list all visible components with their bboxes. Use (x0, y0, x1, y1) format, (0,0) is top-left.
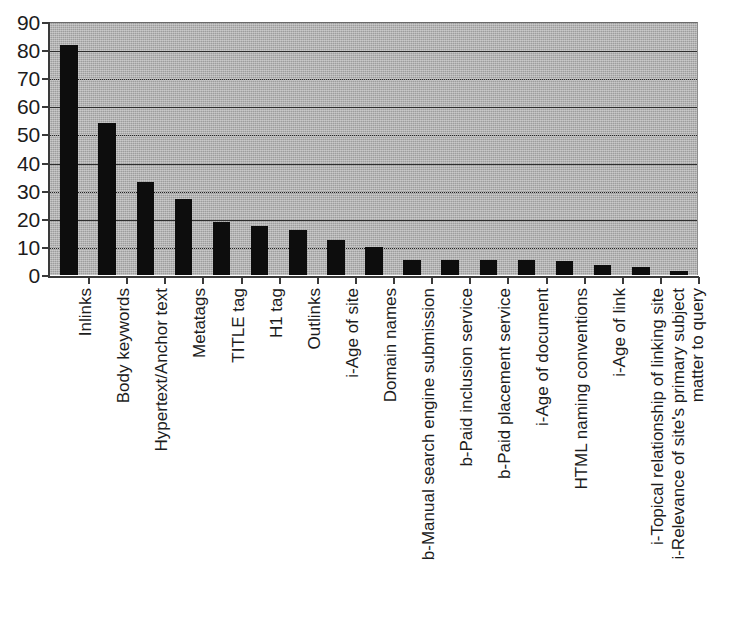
x-category-label: Metatags (190, 288, 209, 358)
gridline (50, 51, 697, 52)
x-category-label: Outlinks (305, 288, 324, 349)
x-tick-mark (698, 277, 700, 284)
x-tick-mark (355, 277, 357, 284)
x-tick-mark (622, 277, 624, 284)
x-category-label: Body keywords (114, 288, 133, 403)
bar[interactable] (137, 182, 155, 275)
x-tick-mark (88, 277, 90, 284)
x-tick-mark (164, 277, 166, 284)
bar[interactable] (289, 230, 307, 275)
bar[interactable] (670, 271, 688, 275)
x-category-label: Hypertext/Anchor text (152, 288, 171, 451)
y-tick-mark (42, 219, 49, 221)
y-tick-mark (42, 22, 49, 24)
y-tick-label: 20 (17, 208, 40, 229)
y-tick-label: 80 (17, 40, 40, 61)
x-tick-mark (279, 277, 281, 284)
x-category-label: Domain names (381, 288, 400, 402)
y-tick-mark (42, 275, 49, 277)
y-tick-label: 70 (17, 68, 40, 89)
bar[interactable] (213, 222, 231, 275)
y-tick-label: 30 (17, 180, 40, 201)
gridline (50, 107, 697, 108)
x-tick-mark (317, 277, 319, 284)
x-tick-mark (507, 277, 509, 284)
y-tick-mark (42, 134, 49, 136)
y-axis-tick-labels: 9080706050403020100 (0, 22, 46, 276)
x-axis-line (48, 276, 699, 278)
y-tick-mark (42, 163, 49, 165)
y-tick-label: 0 (29, 265, 40, 286)
x-category-label-line: i-Relevance of site's primary subject (669, 288, 688, 560)
bar[interactable] (441, 260, 459, 275)
x-axis-category-labels: InlinksBody keywordsHypertext/Anchor tex… (50, 288, 698, 638)
y-tick-label: 10 (17, 236, 40, 257)
x-tick-mark (126, 277, 128, 284)
x-tick-mark (546, 277, 548, 284)
y-tick-label: 60 (17, 96, 40, 117)
x-category-label: b-Paid placement service (495, 288, 514, 479)
y-tick-mark (42, 106, 49, 108)
x-category-label-line: matter to query (688, 288, 707, 560)
x-category-label: b-Manual search engine submission (419, 288, 438, 560)
gridline (50, 164, 697, 165)
x-category-label: i-Relevance of site's primary subjectmat… (669, 288, 707, 560)
x-tick-mark (660, 277, 662, 284)
x-category-label: HTML naming conventions (572, 288, 591, 490)
x-tick-mark (584, 277, 586, 284)
x-category-label: i-Age of link (610, 288, 629, 377)
y-tick-mark (42, 78, 49, 80)
bar-chart: 9080706050403020100 InlinksBody keywords… (0, 0, 730, 642)
bar[interactable] (403, 260, 421, 275)
x-category-label: H1 tag (267, 288, 286, 338)
bar[interactable] (556, 261, 574, 275)
y-tick-mark (42, 50, 49, 52)
x-category-label: i-Age of document (533, 288, 552, 426)
gridline (50, 135, 697, 136)
bar[interactable] (327, 240, 345, 275)
bar[interactable] (594, 265, 612, 275)
bar[interactable] (175, 199, 193, 275)
x-tick-mark (202, 277, 204, 284)
y-tick-mark (42, 191, 49, 193)
x-tick-mark (241, 277, 243, 284)
bar[interactable] (518, 260, 536, 275)
bar[interactable] (98, 123, 116, 275)
bar[interactable] (480, 260, 498, 275)
x-tick-mark (431, 277, 433, 284)
x-category-label: Inlinks (76, 288, 95, 336)
y-tick-label: 40 (17, 152, 40, 173)
x-category-label: i-Age of site (343, 288, 362, 378)
plot-area (50, 22, 698, 275)
bar[interactable] (365, 247, 383, 275)
y-tick-mark (42, 247, 49, 249)
bar[interactable] (60, 45, 78, 276)
y-tick-label: 90 (17, 12, 40, 33)
x-category-label: b-Paid inclusion service (457, 288, 476, 467)
bar[interactable] (632, 267, 650, 275)
x-tick-mark (469, 277, 471, 284)
x-category-label: i-Topical relationship of linking site (648, 288, 667, 545)
y-tick-label: 50 (17, 124, 40, 145)
gridline (50, 79, 697, 80)
x-tick-mark (393, 277, 395, 284)
x-category-label: TITLE tag (229, 288, 248, 363)
bar[interactable] (251, 226, 269, 275)
